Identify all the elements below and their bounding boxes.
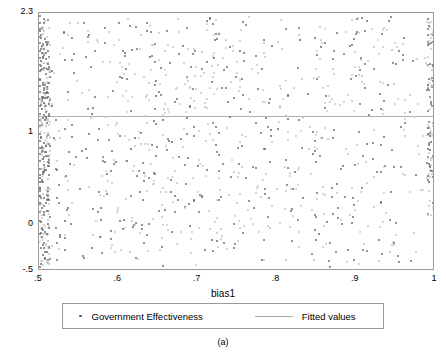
- data-point: [39, 133, 41, 135]
- data-point: [109, 61, 111, 63]
- data-point: [233, 171, 235, 173]
- data-point: [212, 250, 214, 252]
- data-point: [216, 217, 218, 219]
- data-point: [87, 30, 89, 32]
- data-point: [281, 48, 283, 50]
- data-point: [382, 46, 384, 48]
- data-point: [373, 206, 375, 208]
- data-point: [43, 247, 45, 249]
- data-point: [189, 86, 191, 88]
- data-point: [40, 210, 42, 212]
- legend-line-icon: [255, 316, 293, 317]
- y-tick-label: 1: [28, 127, 33, 136]
- data-point: [392, 62, 394, 64]
- data-point: [241, 78, 243, 80]
- data-point: [373, 176, 375, 178]
- data-point: [75, 156, 77, 158]
- data-point: [100, 219, 102, 221]
- data-point: [222, 57, 224, 59]
- data-point: [218, 177, 220, 179]
- data-point: [154, 61, 156, 63]
- data-point: [395, 63, 397, 65]
- y-tick-label: 0: [28, 219, 33, 228]
- data-point: [424, 57, 426, 59]
- data-point: [178, 53, 180, 55]
- data-point: [328, 260, 330, 262]
- x-axis-title: bias1: [0, 288, 446, 299]
- data-point: [85, 56, 87, 58]
- data-point: [158, 32, 160, 34]
- data-point: [362, 155, 364, 157]
- data-point: [339, 104, 341, 106]
- data-point: [241, 145, 243, 147]
- data-point: [379, 81, 381, 83]
- data-point: [337, 217, 339, 219]
- data-point: [171, 231, 173, 233]
- data-point: [43, 214, 45, 216]
- data-point: [47, 50, 49, 52]
- data-point: [290, 188, 292, 190]
- data-point: [297, 219, 299, 221]
- data-point: [164, 209, 166, 211]
- data-point: [264, 148, 266, 150]
- data-point: [308, 148, 310, 150]
- data-point: [289, 175, 291, 177]
- data-point: [402, 59, 404, 61]
- data-point: [153, 120, 155, 122]
- data-point: [198, 227, 200, 229]
- data-point: [433, 63, 434, 65]
- data-point: [142, 199, 144, 201]
- data-point: [162, 187, 164, 189]
- data-point: [410, 260, 412, 262]
- data-point: [428, 144, 430, 146]
- data-point: [427, 214, 429, 216]
- data-point: [372, 142, 374, 144]
- data-point: [132, 170, 134, 172]
- data-point: [168, 111, 170, 113]
- data-point: [143, 242, 145, 244]
- data-point: [233, 223, 235, 225]
- data-point: [336, 192, 338, 194]
- data-point: [432, 33, 434, 35]
- data-point: [324, 102, 326, 104]
- data-point: [42, 181, 44, 183]
- data-point: [251, 68, 253, 70]
- data-point: [354, 66, 356, 68]
- data-point: [285, 114, 287, 116]
- data-point: [420, 189, 422, 191]
- data-point: [47, 219, 49, 221]
- data-point: [257, 72, 259, 74]
- data-point: [99, 194, 101, 196]
- data-point: [40, 247, 42, 249]
- data-point: [433, 143, 434, 145]
- data-point: [43, 161, 45, 163]
- data-point: [51, 245, 53, 247]
- data-point: [158, 91, 160, 93]
- data-point: [68, 214, 70, 216]
- data-point: [361, 17, 363, 19]
- data-point: [146, 30, 148, 32]
- data-point: [125, 90, 127, 92]
- data-point: [87, 36, 89, 38]
- data-point: [351, 187, 353, 189]
- data-point: [315, 134, 317, 136]
- data-point: [203, 72, 205, 74]
- data-point: [39, 160, 41, 162]
- data-point: [357, 163, 359, 165]
- data-point: [144, 115, 146, 117]
- data-point: [193, 126, 195, 128]
- data-point: [357, 200, 359, 202]
- data-point: [176, 98, 178, 100]
- data-point: [302, 197, 304, 199]
- data-point: [126, 78, 128, 80]
- data-point: [216, 240, 218, 242]
- data-point: [180, 231, 182, 233]
- data-point: [346, 261, 348, 263]
- data-point: [150, 31, 152, 33]
- data-point: [117, 133, 119, 135]
- data-point: [393, 166, 395, 168]
- data-point: [432, 34, 434, 36]
- data-point: [226, 127, 228, 129]
- data-point: [347, 94, 349, 96]
- data-point: [130, 148, 132, 150]
